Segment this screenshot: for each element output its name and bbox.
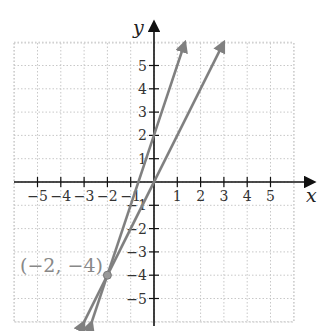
x-tick-label: −3	[74, 188, 95, 204]
y-tick-label: −3	[126, 244, 147, 260]
annotations: (−2, −4)	[20, 254, 111, 279]
x-tick-label: 1	[173, 188, 182, 204]
intersection-label: (−2, −4)	[20, 254, 103, 276]
x-tick-label: −4	[50, 188, 71, 204]
coordinate-plane: −5−4−3−2−11234554321−1−2−3−4−5 (−2, −4) …	[0, 0, 323, 331]
x-tick-label: −2	[97, 188, 118, 204]
y-tick-label: 3	[138, 104, 147, 120]
y-tick-label: 4	[138, 81, 147, 97]
x-tick-label: −5	[27, 188, 48, 204]
x-tick-label: 3	[219, 188, 228, 204]
y-axis-label: y	[132, 16, 144, 38]
y-tick-label: 5	[138, 58, 147, 74]
y-tick-label: 2	[138, 127, 147, 143]
x-axis-label: x	[306, 184, 317, 206]
x-tick-label: 2	[196, 188, 205, 204]
axes	[14, 22, 314, 326]
y-tick-label: −4	[126, 267, 147, 283]
x-tick-label: 4	[243, 188, 252, 204]
y-tick-label: −5	[126, 291, 147, 307]
intersection-point	[103, 271, 111, 279]
x-tick-label: 5	[266, 188, 275, 204]
